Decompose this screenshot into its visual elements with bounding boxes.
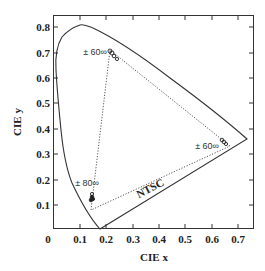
annotation-red: ± 60∞: [195, 141, 219, 151]
annotation-blue: ± 80∞: [75, 178, 99, 188]
x-tick-label: 0.5: [178, 233, 192, 245]
x-tick-label: 0.3: [126, 233, 140, 245]
x-tick-label: 0.4: [152, 233, 166, 245]
x-tick-label: 0.2: [99, 233, 113, 245]
red-markers: [220, 138, 227, 145]
y-tick-label: 0.8: [36, 21, 50, 33]
ntsc-label: NTSC: [134, 176, 166, 200]
x-axis-title: CIE x: [140, 251, 168, 263]
blue-markers: [89, 192, 94, 201]
annotation-green: ± 60∞: [83, 47, 107, 57]
y-tick-labels: 0.1 0.2 0.3 0.4 0.5 0.6 0.7 0.8: [36, 21, 50, 211]
y-tick-label: 0.6: [36, 72, 50, 84]
y-tick-label: 0.4: [36, 123, 50, 135]
x-tick-label: 0: [45, 233, 51, 245]
y-tick-label: 0.1: [36, 199, 50, 211]
y-axis-title: CIE y: [11, 108, 23, 136]
x-tick-label: 0.1: [73, 233, 87, 245]
y-tick-label: 0.7: [36, 47, 50, 59]
cie-chart: 0 0.1 0.2 0.3 0.4 0.5 0.6 0.7 0.1 0.2 0.…: [0, 0, 265, 271]
y-tick-label: 0.3: [36, 148, 50, 160]
y-tick-label: 0.2: [36, 174, 50, 186]
x-tick-labels: 0 0.1 0.2 0.3 0.4 0.5 0.6 0.7: [45, 233, 245, 245]
y-tick-label: 0.5: [36, 97, 50, 109]
x-tick-label: 0.6: [205, 233, 219, 245]
x-tick-label: 0.7: [231, 233, 245, 245]
